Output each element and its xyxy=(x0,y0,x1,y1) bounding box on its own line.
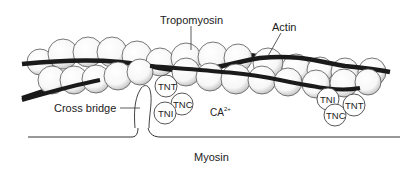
troponin-left-tnt: TNT xyxy=(158,81,177,92)
cross-bridge xyxy=(135,86,152,129)
troponin-right-tnc: TNC xyxy=(326,110,346,121)
myosin-label: Myosin xyxy=(194,152,229,163)
calcium-symbol: CA xyxy=(210,107,224,118)
calcium-charge: 2+ xyxy=(224,106,231,112)
myosin-filament xyxy=(28,126,400,137)
troponin-right-tni: TNI xyxy=(320,94,335,105)
cross-bridge-label: Cross bridge xyxy=(54,103,116,114)
troponin-left-tni: TNI xyxy=(158,108,173,119)
calcium-label: CA2+ xyxy=(210,106,231,118)
thin-filament-diagram: TNT TNC TNI TNI TNC TNT xyxy=(0,0,417,174)
troponin-right-tnt: TNT xyxy=(345,100,364,111)
troponin-left-tnc: TNC xyxy=(173,99,193,110)
tropomyosin-label: Tropomyosin xyxy=(160,15,223,26)
actin-label: Actin xyxy=(272,22,296,33)
